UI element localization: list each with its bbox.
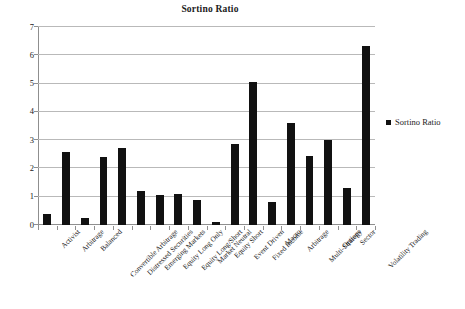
bar[interactable]: [118, 148, 126, 226]
x-tick-label: Volatility Trading: [387, 228, 429, 270]
sortino-ratio-bar-chart: Sortino Ratio 01234567 ActivistArbitrage…: [0, 0, 465, 309]
bar[interactable]: [306, 156, 314, 225]
bar[interactable]: [362, 46, 370, 225]
bar[interactable]: [268, 202, 276, 225]
y-tick-label-3: 3: [4, 136, 34, 145]
x-axis-labels: ActivistArbitrageBalancedConvertible Arb…: [38, 228, 375, 308]
bar[interactable]: [43, 214, 51, 225]
x-tick-label: Arbitrage: [305, 228, 330, 253]
y-tick-label-5: 5: [4, 79, 34, 88]
legend-swatch-sortino-ratio: [386, 120, 391, 125]
bar[interactable]: [193, 200, 201, 225]
y-tick-label-4: 4: [4, 107, 34, 116]
y-tick-label-0: 0: [4, 221, 34, 230]
gridline-4: [38, 111, 375, 112]
y-tick-label-2: 2: [4, 164, 34, 173]
x-tick-mark: [375, 226, 376, 230]
bar[interactable]: [287, 123, 295, 225]
bar[interactable]: [324, 140, 332, 225]
bar[interactable]: [100, 157, 108, 225]
bar[interactable]: [249, 82, 257, 225]
y-axis: 01234567: [0, 27, 34, 225]
bar[interactable]: [231, 144, 239, 225]
legend-label-sortino-ratio: Sortino Ratio: [395, 118, 441, 127]
bar[interactable]: [343, 188, 351, 225]
y-tick-label-1: 1: [4, 192, 34, 201]
chart-legend: Sortino Ratio: [386, 118, 441, 127]
bar[interactable]: [62, 152, 70, 225]
y-tick-label-6: 6: [4, 51, 34, 60]
chart-title: Sortino Ratio: [0, 4, 420, 14]
plot-area: [38, 27, 375, 225]
y-tick-label-7: 7: [4, 23, 34, 32]
gridline-6: [38, 54, 375, 55]
bar[interactable]: [212, 222, 220, 225]
bar[interactable]: [137, 191, 145, 225]
bar[interactable]: [81, 218, 89, 225]
gridline-5: [38, 83, 375, 84]
bar[interactable]: [174, 194, 182, 225]
bar[interactable]: [156, 195, 164, 225]
gridline-7: [38, 26, 375, 27]
